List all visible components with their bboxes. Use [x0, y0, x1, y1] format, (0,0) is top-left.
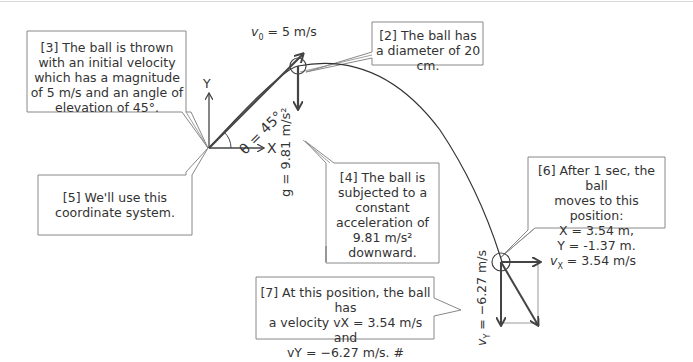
- callout-3-content: [3] The ball is thrown with an initial v…: [31, 40, 184, 115]
- callout-7-text: [7] At this position, the ball has a vel…: [258, 285, 433, 360]
- callout-4-line: [4] The ball is: [327, 170, 438, 185]
- y-axis-label: Y: [203, 76, 211, 91]
- vy-subscript: Y: [483, 334, 492, 339]
- callout-3-pointer: [186, 112, 208, 148]
- vx-label: vX = 3.54 m/s: [550, 253, 636, 271]
- callout-4-line: subjected to a: [327, 185, 438, 200]
- callout-6-line: Y = -1.37 m.: [529, 238, 664, 253]
- y-axis-text: Y: [203, 76, 211, 91]
- callout-2-content: [2] The ball has a diameter of 20 cm.: [376, 28, 480, 73]
- v0-value: = 5 m/s: [264, 24, 317, 39]
- callout-7-line: a velocity vX = 3.54 m/s and: [258, 315, 433, 345]
- callout-5-text: [5] We'll use this coordinate system.: [40, 190, 190, 220]
- callout-4-line: constant: [327, 200, 438, 215]
- gravity-label: g = 9.81 m/s²: [278, 107, 293, 197]
- x-axis-text: X: [267, 140, 277, 156]
- callout-4-text: [4] The ball is subjected to a constant …: [327, 170, 438, 260]
- x-axis-label: X: [267, 140, 277, 156]
- vy-value: = −6.27 m/s: [474, 250, 489, 334]
- callout-4-pointer: [303, 140, 330, 163]
- callout-6-text: [6] After 1 sec, the ball moves to this …: [529, 163, 664, 253]
- vy-label: vY = −6.27 m/s: [474, 250, 492, 346]
- callout-4-line: 9.81 m/s²: [327, 230, 438, 245]
- callout-3-text: [3] The ball is thrown with an initial v…: [30, 40, 184, 115]
- resultant-velocity-vector: [501, 262, 538, 325]
- vy-symbol: v: [474, 339, 489, 346]
- angle-arc: [224, 132, 231, 148]
- vx-value: = 3.54 m/s: [563, 253, 636, 268]
- callout-6-line: [6] After 1 sec, the ball: [529, 163, 664, 193]
- initial-velocity-label: v0 = 5 m/s: [251, 24, 317, 42]
- callout-6-line: moves to this position:: [529, 193, 664, 223]
- callout-4-line: downward.: [327, 245, 438, 260]
- callout-7-line: [7] At this position, the ball has: [258, 285, 433, 315]
- callout-7-line: vY = −6.27 m/s. #: [258, 345, 433, 360]
- callout-5-content: [5] We'll use this coordinate system.: [55, 190, 175, 220]
- callout-4-line: acceleration of: [327, 215, 438, 230]
- callout-2-text: [2] The ball has a diameter of 20 cm.: [375, 28, 481, 73]
- gravity-text: g = 9.81 m/s²: [278, 107, 293, 197]
- callout-6-line: X = 3.54 m,: [529, 223, 664, 238]
